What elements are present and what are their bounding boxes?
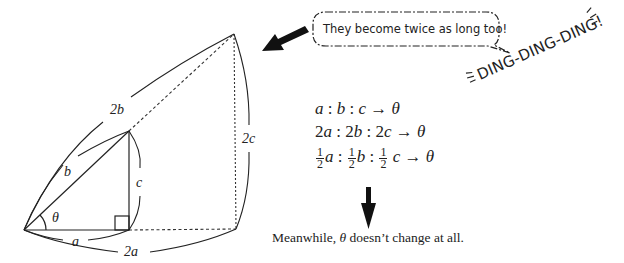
fraction-half: 12 [379,147,387,170]
inner-triangle [24,131,129,230]
speech-bubble-text: They become twice as long too! [322,22,507,36]
angle-arc [40,215,46,230]
right-angle-marker [115,216,129,230]
caption: Meanwhile, θ doesn’t change at all. [272,230,464,246]
label-2c: 2c [242,131,256,146]
ratio-line-3: 12a : 12b : 12 c → θ [315,146,434,170]
fraction-half: 12 [348,147,356,170]
down-arrow-icon [361,187,376,229]
label-b: b [64,164,71,179]
fraction-half: 12 [316,147,324,170]
ratio-line-2: 2a : 2b : 2c → θ [315,121,425,143]
label-2b: 2b [110,102,124,117]
pointer-arrow-icon [262,26,309,51]
similar-triangles-diagram: a b c 2a 2b 2c θ They become twice as lo… [0,0,624,263]
label-a: a [72,234,79,249]
diagram-labels: a b c 2a 2b 2c θ [52,102,256,259]
label-theta: θ [52,210,59,225]
label-c: c [136,175,143,190]
label-2a: 2a [124,244,138,259]
ratio-line-1: a : b : c → θ [315,98,400,120]
speech-bubble: They become twice as long too! [313,12,510,53]
